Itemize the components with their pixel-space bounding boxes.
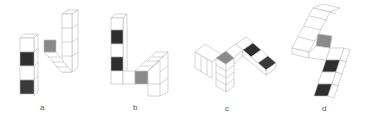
dark-face — [20, 80, 34, 94]
option-label-d: d — [322, 104, 326, 113]
gray-face — [44, 40, 56, 52]
dark-face — [111, 30, 123, 44]
gray-face — [316, 34, 332, 48]
dark-face — [20, 52, 34, 66]
option-label-b: b — [133, 103, 137, 112]
option-label-c: c — [225, 104, 229, 113]
gray-face — [135, 71, 148, 84]
figure-a — [20, 10, 78, 96]
figure-b — [111, 14, 168, 96]
figure-d — [292, 4, 350, 98]
dark-face — [111, 57, 123, 71]
figure-c — [195, 37, 276, 92]
option-label-a: a — [40, 103, 44, 112]
cube-figures — [0, 0, 371, 122]
